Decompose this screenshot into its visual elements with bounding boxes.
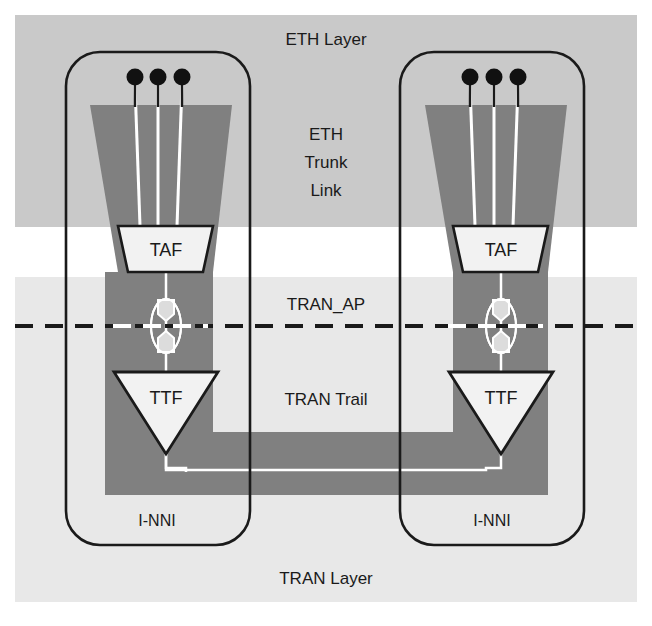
- eth-trunk-link-line-2: Trunk: [305, 153, 348, 172]
- eth-trunk-link-line-1: ETH: [309, 125, 343, 144]
- tran-ap-label: TRAN_AP: [287, 295, 365, 314]
- eth-trunk-link-line-3: Link: [310, 181, 342, 200]
- ttf-label: TTF: [485, 388, 518, 408]
- left-inni-label: I-NNI: [138, 512, 175, 529]
- left-eth-termination-points[interactable]: [127, 69, 191, 108]
- eth-termination-point-dot[interactable]: [174, 69, 191, 86]
- tran-trail-label: TRAN Trail: [284, 390, 367, 409]
- left-taf-node[interactable]: TAF: [118, 226, 213, 272]
- eth-termination-point-dot[interactable]: [150, 69, 167, 86]
- right-inni-label: I-NNI: [473, 512, 510, 529]
- ttf-label: TTF: [150, 388, 183, 408]
- tran-layer-label: TRAN Layer: [279, 569, 373, 588]
- eth-termination-point-dot[interactable]: [510, 69, 527, 86]
- layered-network-diagram: TAF TAF TTF TTF: [0, 0, 652, 626]
- eth-trunk-link-label: ETH Trunk Link: [305, 125, 348, 200]
- taf-label: TAF: [150, 240, 183, 260]
- taf-label: TAF: [485, 240, 518, 260]
- eth-termination-point-dot[interactable]: [127, 69, 144, 86]
- eth-layer-label: ETH Layer: [285, 30, 367, 49]
- right-taf-node[interactable]: TAF: [453, 226, 548, 272]
- eth-termination-point-dot[interactable]: [462, 69, 479, 86]
- eth-termination-point-dot[interactable]: [486, 69, 503, 86]
- diagram-canvas: TAF TAF TTF TTF: [0, 0, 652, 626]
